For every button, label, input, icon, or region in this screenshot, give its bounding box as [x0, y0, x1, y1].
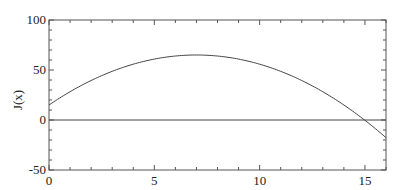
x-axis-ticks: 051015	[46, 20, 386, 188]
y-axis-ticks: -50050100	[27, 12, 387, 177]
x-tick-label: 10	[253, 173, 266, 188]
x-tick-label: 15	[358, 173, 371, 188]
y-tick-label: -50	[29, 162, 46, 177]
x-tick-label: 5	[151, 173, 158, 188]
y-axis-label: J(x)	[10, 90, 25, 110]
y-tick-label: 50	[33, 62, 46, 77]
data-series	[49, 55, 386, 138]
plot-frame	[49, 20, 386, 170]
curve-line	[49, 55, 386, 138]
y-tick-label: 0	[40, 112, 47, 127]
y-tick-label: 100	[27, 12, 47, 27]
x-tick-label: 0	[46, 173, 53, 188]
plot-border	[49, 20, 386, 170]
chart: 051015 -50050100 J(x)	[0, 0, 402, 190]
